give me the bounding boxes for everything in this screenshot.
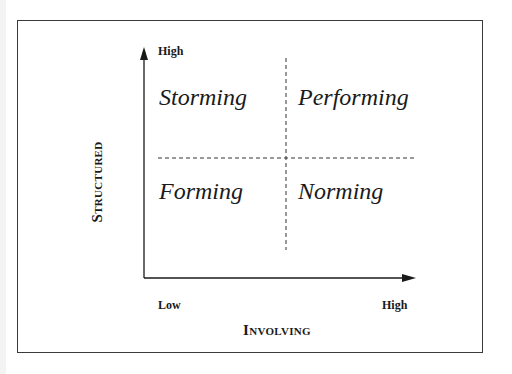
x-low-label: Low <box>158 298 181 313</box>
matrix-lines <box>0 0 512 374</box>
x-axis-arrow-icon <box>402 274 416 282</box>
quadrant-performing: Performing <box>298 84 409 111</box>
x-axis-title: Involving <box>243 322 311 339</box>
quadrant-storming: Storming <box>159 84 247 111</box>
quadrant-norming: Norming <box>298 178 383 205</box>
y-axis-title: Structured <box>87 122 107 242</box>
y-high-label: High <box>158 44 183 59</box>
x-high-label: High <box>382 298 407 313</box>
quadrant-forming: Forming <box>159 178 243 205</box>
y-axis-arrow-icon <box>140 47 148 60</box>
